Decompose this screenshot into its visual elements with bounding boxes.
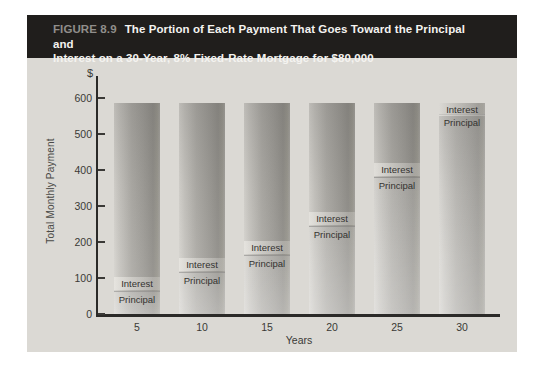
bar-chart: Total Monthly Payment $ 0100200300400500… [27,58,517,352]
principal-label-year-15: Principal [244,257,290,270]
principal-label-year-5: Principal [114,293,160,306]
y-tick-mark-400 [98,169,105,171]
principal-label-year-30: Principal [439,116,485,129]
principal-segment-year-30 [439,114,485,314]
y-tick-mark-200 [98,241,105,243]
interest-label-year-25: Interest [374,163,420,176]
y-tick-label-300: 300 [52,200,92,212]
interest-label-year-10: Interest [179,258,225,271]
x-tick-label-25: 25 [377,321,417,333]
y-tick-label-100: 100 [52,272,92,284]
interest-label-year-20: Interest [309,212,355,225]
bar-year-5: InterestPrincipal [114,103,160,314]
interest-label-year-30: Interest [439,103,485,116]
principal-label-year-10: Principal [179,274,225,287]
bar-year-15: InterestPrincipal [244,103,290,314]
bar-year-30: InterestPrincipal [439,103,485,314]
bar-year-25: InterestPrincipal [374,103,420,314]
principal-segment-year-25 [374,177,420,314]
currency-symbol: $ [52,67,93,79]
plot-area: Total Monthly Payment $ 0100200300400500… [27,15,517,352]
x-tick-label-10: 10 [182,321,222,333]
principal-label-year-20: Principal [309,228,355,241]
y-tick-mark-0 [98,313,105,315]
bar-year-10: InterestPrincipal [179,103,225,314]
x-tick-label-5: 5 [117,321,157,333]
interest-label-year-5: Interest [114,277,160,290]
x-tick-label-30: 30 [442,321,482,333]
y-tick-mark-300 [98,205,105,207]
interest-label-year-15: Interest [244,241,290,254]
bar-year-20: InterestPrincipal [309,103,355,314]
x-axis-line [96,314,500,317]
y-tick-mark-500 [98,133,105,135]
y-tick-label-600: 600 [52,92,92,104]
y-tick-label-0: 0 [52,308,92,320]
principal-label-year-25: Principal [374,179,420,192]
y-axis-line [96,76,98,316]
y-tick-label-200: 200 [52,236,92,248]
y-tick-mark-100 [98,277,105,279]
x-axis-title: Years [199,334,399,346]
figure-panel: FIGURE 8.9The Portion of Each Payment Th… [27,15,517,352]
y-tick-mark-600 [98,97,105,99]
y-tick-label-400: 400 [52,164,92,176]
y-tick-label-500: 500 [52,128,92,140]
x-tick-label-20: 20 [312,321,352,333]
x-tick-label-15: 15 [247,321,287,333]
